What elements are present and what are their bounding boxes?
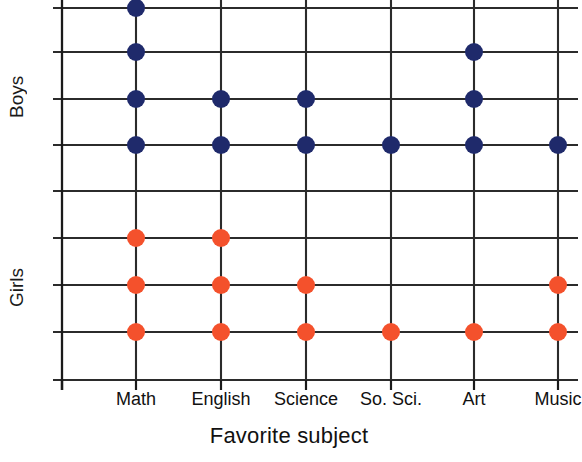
data-point-girls [127,276,145,294]
y-axis-group-label-boys: Boys [7,57,26,137]
x-axis-tick-label: Music [534,390,581,410]
x-axis-tick-label: So. Sci. [360,390,422,410]
data-point-boys [127,90,145,108]
x-axis-tick-label: English [191,390,250,410]
data-point-girls [465,323,483,341]
data-point-boys [127,43,145,61]
data-point-girls [549,323,567,341]
data-point-girls [127,229,145,247]
data-point-boys [549,136,567,154]
data-point-girls [212,276,230,294]
x-axis-tick-label: Science [274,390,338,410]
data-point-girls [382,323,400,341]
data-point-girls [212,323,230,341]
data-point-girls [127,323,145,341]
data-point-boys [127,0,145,17]
data-point-boys [297,90,315,108]
data-point-boys [297,136,315,154]
data-point-girls [297,323,315,341]
data-point-boys [212,90,230,108]
data-point-boys [382,136,400,154]
data-point-boys [127,136,145,154]
x-axis-tick-label: Math [116,390,156,410]
data-point-boys [212,136,230,154]
data-point-girls [297,276,315,294]
x-axis-title: Favorite subject [0,423,578,449]
x-axis-tick-label: Art [462,390,485,410]
data-point-boys [465,43,483,61]
y-axis-group-label-girls: Girls [7,247,26,327]
data-point-boys [465,90,483,108]
data-point-girls [549,276,567,294]
data-point-girls [212,229,230,247]
data-point-boys [465,136,483,154]
